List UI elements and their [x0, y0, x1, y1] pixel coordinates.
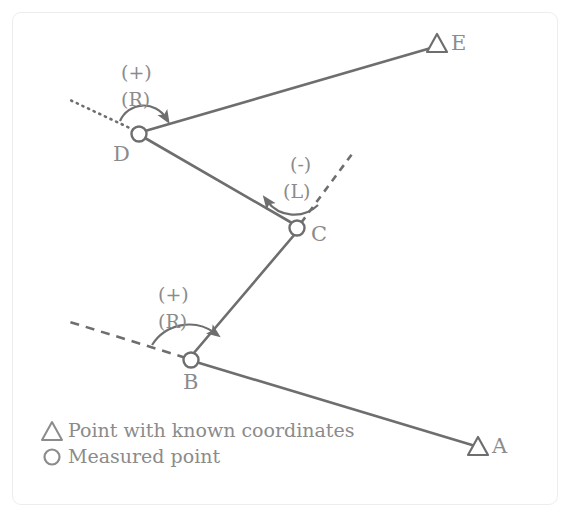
angle-direction-label-b: (R): [158, 312, 187, 331]
angle-direction-label-d: (R): [121, 90, 150, 109]
angle-sign-label-d: (+): [121, 63, 152, 82]
leg-d-e: [145, 48, 431, 131]
leg-c-d: [145, 138, 292, 223]
legend-circle-marker: [45, 450, 60, 465]
leg-b-c: [193, 234, 295, 354]
vertex-label-c: C: [311, 224, 327, 245]
legend-label-measured-point: Measured point: [68, 447, 220, 466]
legend-triangle-marker: [42, 422, 62, 440]
vertex-label-a: A: [492, 436, 507, 457]
point-marker-e: [427, 34, 447, 52]
vertex-label-b: B: [183, 372, 198, 393]
angle-direction-label-c: (L): [283, 182, 310, 201]
vertex-label-e: E: [451, 33, 466, 54]
vertex-label-d: D: [113, 144, 130, 165]
legend-label-known-point: Point with known coordinates: [68, 421, 354, 440]
point-marker-d: [132, 127, 147, 142]
point-marker-c: [290, 221, 305, 236]
traverse-diagram-figure: A B C D E (+) (R) (-) (L) (+) (R) Point …: [0, 0, 575, 517]
angle-sign-label-c: (-): [290, 155, 311, 174]
point-marker-b: [184, 353, 199, 368]
legend-markers: [42, 422, 62, 465]
angle-sign-label-b: (+): [158, 285, 189, 304]
